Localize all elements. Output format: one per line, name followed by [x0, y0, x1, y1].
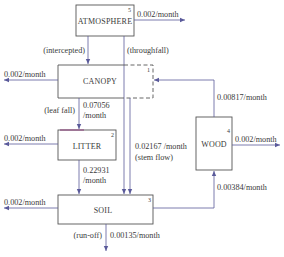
soil-box: SOIL 3 [58, 195, 153, 224]
soil-to-wood-label: 0.00384/month [217, 183, 267, 192]
leaf-fall-label: (leaf fall) [44, 106, 75, 115]
litter-number: 2 [111, 132, 114, 138]
runoff-rate: 0.00135/month [110, 231, 160, 240]
soil-label: SOIL [94, 206, 113, 215]
intercepted-label: (intercepted) [43, 46, 85, 55]
soil-number: 3 [148, 197, 151, 203]
litter-to-soil-rate-unit: /month [83, 176, 106, 185]
wood-number: 4 [227, 128, 230, 134]
atmosphere-box: ATMOSPHERE 5 [76, 5, 134, 36]
soil-to-wood-arrow [153, 171, 214, 208]
atmosphere-number: 5 [128, 7, 131, 13]
wood-outflow-label: 0.002/month [235, 135, 277, 144]
throughfall-label: (throughfall) [127, 46, 169, 55]
runoff-label: (run-off) [74, 231, 103, 240]
stem-flow-label: (stem flow) [135, 153, 173, 162]
canopy-outflow-label: 0.002/month [4, 70, 46, 79]
canopy-number: 1 [147, 67, 150, 73]
canopy-label: CANOPY [83, 77, 117, 86]
stem-flow-rate: 0.02167 /month [135, 142, 187, 151]
canopy-box: CANOPY 1 [58, 65, 153, 98]
litter-to-soil-rate: 0.22931 [83, 166, 110, 175]
atmosphere-label: ATMOSPHERE [78, 17, 132, 26]
wood-label: WOOD [201, 140, 227, 149]
litter-outflow-label: 0.002/month [4, 134, 46, 143]
atmosphere-outflow-label: 0.002/month [137, 10, 179, 19]
litter-box: LITTER 2 [58, 130, 116, 160]
soil-outflow-label: 0.002/month [4, 198, 46, 207]
wood-box: WOOD 4 [196, 117, 232, 170]
leaf-fall-rate: 0.07056 [83, 101, 110, 110]
compartment-flow-diagram: ATMOSPHERE 5 0.002/month (intercepted) (… [0, 0, 284, 257]
litter-label: LITTER [73, 142, 102, 151]
leaf-fall-rate-unit: /month [83, 111, 106, 120]
wood-to-canopy-arrow [154, 80, 214, 117]
wood-to-canopy-label: 0.00817/month [217, 93, 267, 102]
